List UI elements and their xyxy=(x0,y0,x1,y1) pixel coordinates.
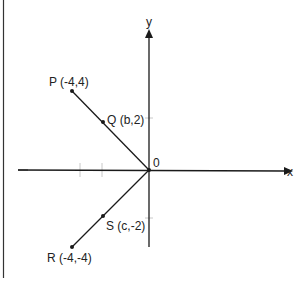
segment-p-origin xyxy=(72,91,149,170)
point-q-label: Q (b,2) xyxy=(107,113,144,127)
x-axis xyxy=(18,170,284,171)
origin-label: 0 xyxy=(153,156,160,170)
point-s-label: S (c,-2) xyxy=(106,219,145,233)
point-p-label: P (-4,4) xyxy=(49,75,89,89)
coordinate-diagram: x y 0 P (-4,4) Q (b,2) R (-4,-4) S (c,-2… xyxy=(0,0,306,282)
point-r-label: R (-4,-4) xyxy=(47,251,92,265)
y-axis-label: y xyxy=(146,15,152,29)
y-axis-arrow-icon xyxy=(145,29,153,38)
point-r xyxy=(70,245,74,249)
segment-r-origin xyxy=(72,170,149,247)
point-p xyxy=(70,89,74,93)
x-axis-label: x xyxy=(287,165,293,179)
point-q xyxy=(101,120,105,124)
point-s xyxy=(101,214,105,218)
